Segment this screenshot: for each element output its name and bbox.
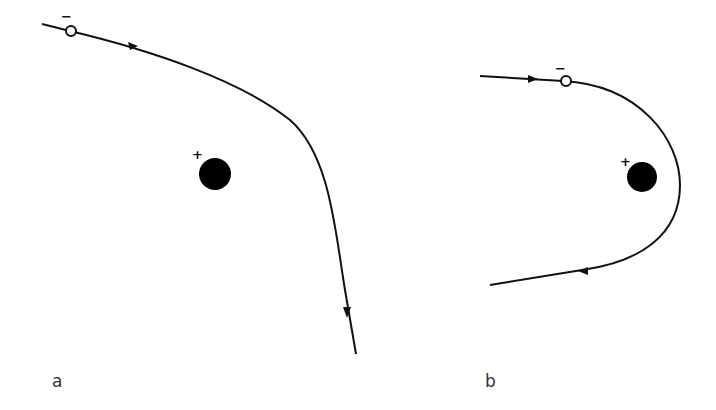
electron-a (66, 26, 76, 36)
particle-sign-b: − (555, 62, 566, 75)
panel-label-a: a (52, 371, 62, 391)
diagram-canvas (0, 0, 716, 410)
nucleus-b (627, 162, 657, 192)
trajectory-a (42, 24, 356, 354)
nucleus-sign-a: + (192, 148, 203, 161)
panel-label-b: b (485, 371, 496, 391)
particle-sign-a: − (61, 10, 72, 23)
arrow-icon (578, 267, 588, 275)
electron-b (561, 76, 571, 86)
nucleus-a (199, 158, 231, 190)
nucleus-sign-b: + (620, 155, 631, 168)
arrow-icon (528, 75, 538, 83)
